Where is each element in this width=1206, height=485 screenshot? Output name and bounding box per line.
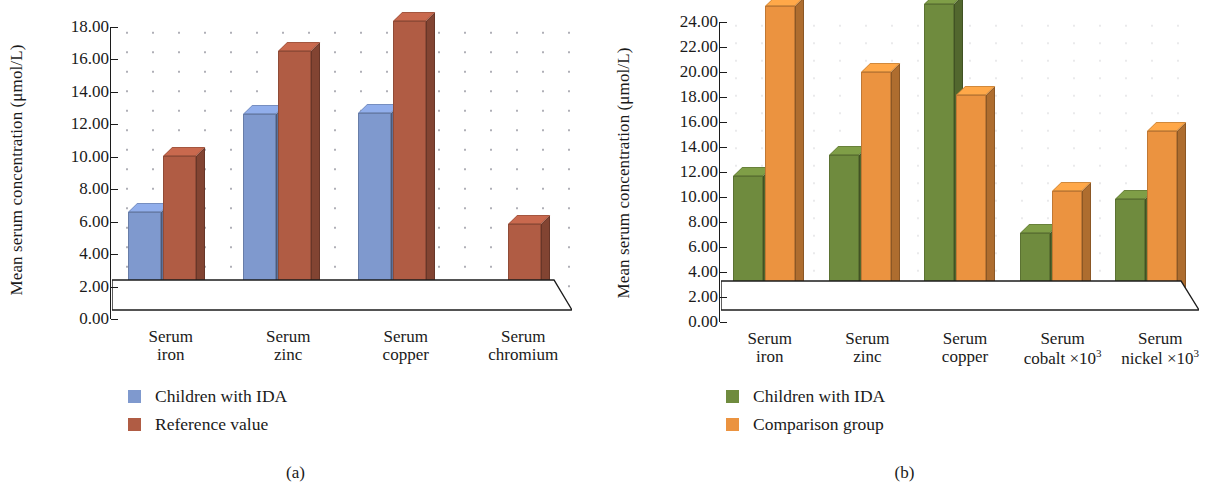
bar-comparison-group (1147, 131, 1177, 310)
bar-top-face (163, 147, 205, 156)
x-axis-label: Serumzinc (819, 330, 917, 367)
y-tick-label: 6.00 (79, 212, 111, 232)
y-tick-label: 4.00 (688, 262, 720, 282)
y-tick-mark (111, 124, 118, 125)
bar-comparison-group (1052, 191, 1082, 305)
y-tick-label: 6.00 (688, 237, 720, 257)
y-tick-b: 24.00 (680, 12, 720, 32)
bar-top-face (765, 0, 804, 6)
bar-comparison-group (765, 6, 795, 290)
bar-front-face (956, 95, 986, 300)
y-axis-title-b: Mean serum concentration (μmol/L) (611, 8, 637, 338)
y-tick-b: 16.00 (680, 112, 720, 132)
y-tick-mark (720, 222, 727, 223)
bar-top-face (1147, 122, 1186, 131)
y-tick-label: 4.00 (79, 244, 111, 264)
legend-item[interactable]: Children with IDA (726, 386, 885, 407)
bar-top-face (829, 146, 868, 155)
x-label-line: copper (347, 346, 465, 364)
y-tick-label: 14.00 (71, 82, 111, 102)
y-tick-mark (720, 72, 727, 73)
bar-side-face (196, 148, 205, 289)
x-label-line: copper (916, 348, 1014, 366)
bar-reference-value (278, 51, 311, 296)
y-tick-b: 6.00 (688, 237, 720, 257)
legend-item[interactable]: Children with IDA (128, 386, 287, 407)
bar-front-face (358, 113, 391, 303)
bar-front-face (278, 51, 311, 296)
y-tick-label: 2.00 (79, 277, 111, 297)
y-tick-label: 20.00 (680, 62, 720, 82)
bar-front-face (829, 155, 859, 295)
bar-top-face (358, 104, 400, 113)
y-tick-a: 4.00 (79, 244, 111, 264)
legend-label: Children with IDA (155, 386, 287, 407)
bar-front-face (733, 176, 763, 290)
y-tick-label: 16.00 (71, 49, 111, 69)
bar-side-face (391, 104, 400, 303)
bar-top-face (393, 12, 435, 21)
y-tick-a: 14.00 (71, 82, 111, 102)
bar-children-with-ida (1020, 233, 1050, 305)
y-tick-mark (720, 297, 727, 298)
legend-swatch-icon (726, 390, 739, 403)
y-tick-mark (111, 319, 118, 320)
floor-polygon (112, 20, 572, 320)
legend-label: Comparison group (753, 414, 884, 435)
y-tick-mark (720, 272, 727, 273)
y-tick-b: 12.00 (680, 162, 720, 182)
y-axis-title-a-text: Mean serum concentration (μmol/L) (7, 45, 27, 296)
x-label-line: Serum (112, 328, 230, 346)
y-tick-a: 16.00 (71, 49, 111, 69)
panel-b: Mean serum concentration (μmol/L) 0.002.… (603, 0, 1206, 485)
y-tick-mark (720, 97, 727, 98)
bar-reference-value (508, 224, 541, 310)
y-tick-mark (111, 59, 118, 60)
grid-dots-a (112, 20, 572, 320)
plot-area-a (112, 20, 572, 320)
bar-side-face (859, 147, 868, 295)
bar-front-face (473, 291, 506, 310)
x-label-line: cobalt ×103 (1014, 348, 1112, 368)
bar-front-face (1020, 233, 1050, 305)
y-tick-b: 4.00 (688, 262, 720, 282)
y-tick-label: 10.00 (680, 187, 720, 207)
y-tick-label: 16.00 (680, 112, 720, 132)
bar-children-with-ida (243, 114, 276, 296)
bar-front-face (924, 4, 954, 300)
x-axis-label: Serumzinc (230, 328, 348, 364)
y-tick-mark (720, 172, 727, 173)
x-label-line: Serum (347, 328, 465, 346)
y-tick-mark (111, 157, 118, 158)
y-tick-b: 22.00 (680, 37, 720, 57)
y-tick-label: 14.00 (680, 137, 720, 157)
y-tick-mark (111, 27, 118, 28)
y-tick-b: 0.00 (688, 312, 720, 332)
panel-caption-b: (b) (603, 463, 1206, 483)
x-axis-labels-a: SerumironSerumzincSerumcopperSerumchromi… (112, 328, 582, 364)
x-label-line: Serum (819, 330, 917, 348)
legend-item[interactable]: Reference value (128, 414, 287, 435)
y-tick-label: 2.00 (688, 287, 720, 307)
bar-front-face (128, 212, 161, 289)
bar-front-face (163, 156, 196, 289)
y-tick-mark (111, 222, 118, 223)
bar-top-face (956, 86, 995, 95)
y-tick-mark (111, 189, 118, 190)
bar-side-face (1050, 224, 1059, 305)
x-label-line: zinc (230, 346, 348, 364)
y-axis-b: 0.002.004.006.008.0010.0012.0014.0016.00… (719, 22, 720, 322)
x-label-line: nickel ×103 (1111, 348, 1206, 368)
legend-item[interactable]: Comparison group (726, 414, 885, 435)
legend-label: Reference value (155, 414, 268, 435)
x-label-line: Serum (721, 330, 819, 348)
y-tick-label: 24.00 (680, 12, 720, 32)
y-tick-label: 0.00 (79, 309, 111, 329)
legend-b: Children with IDAComparison group (726, 386, 885, 442)
bar-children-with-ida (1115, 199, 1145, 310)
bar-top-face (278, 42, 320, 51)
plot-area-b (721, 14, 1199, 320)
y-tick-b: 8.00 (688, 212, 720, 232)
y-tick-mark (720, 197, 727, 198)
bar-side-face (506, 282, 515, 310)
